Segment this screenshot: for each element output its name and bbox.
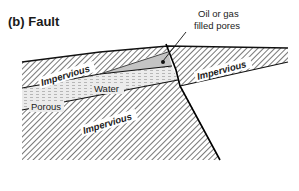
diagram-title: (b) Fault [8,14,60,29]
porous-label-group: Porous [29,101,64,112]
water-label: Water [94,83,119,94]
annotation-line-2: filled pores [194,20,240,31]
annotation-line-1: Oil or gas [198,8,239,19]
fault-diagram: (b) Fault Oil or gas filled pores Imperv… [0,0,299,191]
annotation-pointer-dot [161,60,165,64]
water-label-group: Water [92,83,124,94]
porous-label: Porous [31,101,61,112]
